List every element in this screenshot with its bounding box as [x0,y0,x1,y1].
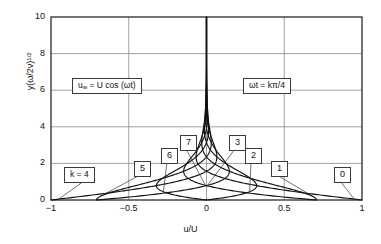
leader-line-2 [250,162,251,192]
y-tick-label: 8 [19,48,45,58]
stokes-oscillating-plate-figure: y(ω/2ν)1/2 u/U 0246810−1−0.500.51 uw = U… [0,0,381,244]
leader-line-1 [277,175,313,196]
series-label-6: 6 [161,148,178,164]
x-tick-label: 0.5 [264,203,304,213]
series-label-5: 5 [134,161,151,177]
y-tick-label: 10 [19,11,45,21]
leader-line-0 [340,181,354,199]
y-axis-label: y(ω/2ν)1/2 [25,11,36,131]
y-tick-label: 2 [19,157,45,167]
series-label-3: 3 [229,135,246,151]
y-tick-label: 4 [19,121,45,131]
curve-k-1 [202,17,317,200]
curve-k-2 [204,17,256,200]
wall-velocity-equation: uw = U cos (ωt) [72,78,142,94]
x-tick-label: 1 [342,203,381,213]
series-label-7: 7 [180,135,197,151]
x-tick-label: −1 [31,203,71,213]
curve-k-5 [97,17,212,200]
series-label-1: 1 [271,161,288,177]
phase-definition: ωt = kπ/4 [243,78,291,94]
x-tick-label: −0.5 [109,203,149,213]
curve-k-6 [156,17,208,200]
k-equals-4-label: k = 4 [64,167,95,183]
series-label-0: 0 [334,167,351,183]
series-label-2: 2 [245,148,262,164]
x-tick-label: 0 [187,203,227,213]
x-axis-label: u/U [0,224,381,234]
y-tick-label: 6 [19,84,45,94]
